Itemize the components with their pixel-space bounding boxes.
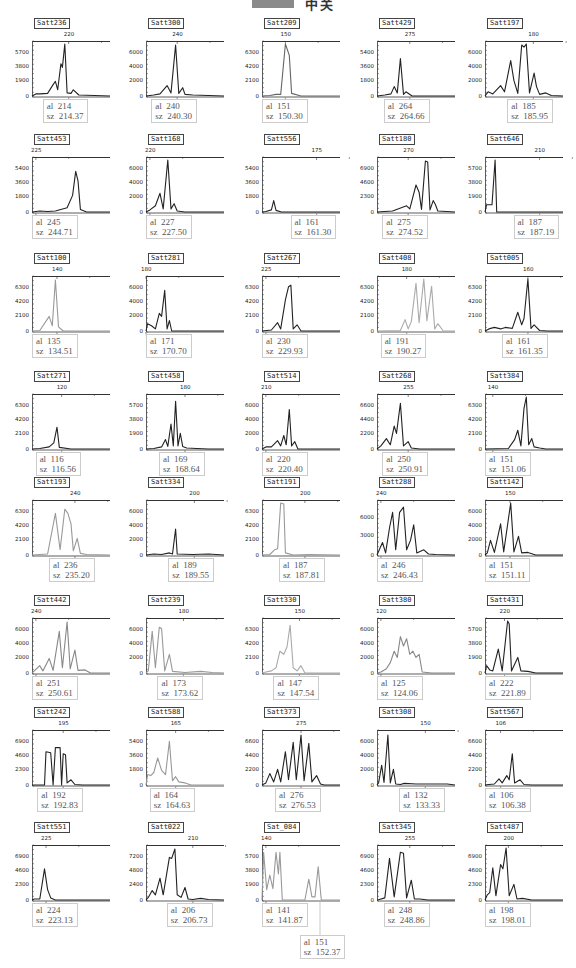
allele-value: al 220 bbox=[266, 454, 303, 464]
trace-plot bbox=[262, 276, 346, 336]
size-value: sz 187.81 bbox=[283, 570, 320, 580]
y-tick-label: 2100 bbox=[7, 536, 29, 542]
panel-satt022: Satt0222107200480024000al 206sz 206.73 bbox=[118, 818, 230, 936]
allele-value: al 224 bbox=[36, 905, 73, 915]
panel-satt191: Satt1912006300420021000al 187sz 187.81 bbox=[234, 473, 346, 591]
panel-satt514: Satt5142106000400020000al 220sz 220.40 bbox=[234, 367, 346, 485]
allele-value: al 245 bbox=[36, 217, 73, 227]
y-tick-label: 4000 bbox=[121, 640, 143, 646]
size-value: sz 151.11 bbox=[489, 570, 525, 580]
y-tick-label: 4200 bbox=[237, 298, 259, 304]
allele-call-box: al 132sz 133.33 bbox=[399, 788, 445, 812]
allele-value: al 147 bbox=[277, 678, 314, 688]
reference-size-label: 225 bbox=[41, 835, 52, 841]
marker-label: Satt556 bbox=[264, 134, 300, 145]
y-tick-label: 0 bbox=[7, 782, 29, 788]
reference-size-label: 225 bbox=[261, 266, 272, 272]
allele-value: al 151 bbox=[266, 101, 303, 111]
size-value: sz 250.61 bbox=[36, 688, 73, 698]
trace-plot bbox=[485, 618, 569, 678]
size-value: sz 106.38 bbox=[489, 800, 526, 810]
allele-call-box: al 161sz 161.30 bbox=[291, 215, 337, 239]
size-value: sz 274.52 bbox=[386, 227, 423, 237]
y-tick-label: 2100 bbox=[237, 312, 259, 318]
panel-satt380: Satt3801206000400020000al 125sz 124.06 bbox=[349, 591, 461, 709]
reference-size-label: 200 bbox=[189, 490, 200, 496]
y-tick-label: 0 bbox=[460, 93, 482, 99]
panel-satt487: Satt4872006900460023000al 198sz 198.01 bbox=[457, 818, 569, 936]
size-value: sz 150.30 bbox=[266, 111, 303, 121]
allele-call-box: al 245sz 244.71 bbox=[32, 215, 78, 239]
y-tick-label: 0 bbox=[121, 552, 143, 558]
panel-satt193: Satt1932406300420021000al 236sz 235.20 bbox=[4, 473, 116, 591]
allele-call-box: al 141sz 141.87 bbox=[262, 903, 308, 927]
size-value: sz 246.43 bbox=[381, 570, 418, 580]
y-tick-label: 1900 bbox=[237, 881, 259, 887]
allele-call-box: al 151sz 150.30 bbox=[262, 99, 308, 123]
y-tick-label: 4200 bbox=[237, 522, 259, 528]
reference-size-label: 240 bbox=[70, 490, 81, 496]
size-value: sz 170.70 bbox=[150, 346, 187, 356]
panel-satt308: Satt3081506000400020000al 132sz 133.33 bbox=[349, 703, 461, 821]
y-tick-label: 3600 bbox=[352, 63, 374, 69]
y-tick-label: 6000 bbox=[460, 508, 482, 514]
y-tick-label: 2000 bbox=[7, 654, 29, 660]
size-value: sz 164.63 bbox=[154, 800, 191, 810]
y-tick-label: 0 bbox=[237, 446, 259, 452]
reference-size-label: 240 bbox=[376, 490, 387, 496]
y-tick-label: 3600 bbox=[7, 179, 29, 185]
trace-plot bbox=[262, 41, 346, 101]
y-tick-label: 0 bbox=[121, 93, 143, 99]
y-tick-label: 2000 bbox=[121, 193, 143, 199]
y-tick-label: 6300 bbox=[7, 284, 29, 290]
size-value: sz 214.37 bbox=[47, 111, 84, 121]
y-tick-label: 0 bbox=[237, 93, 259, 99]
panel-satt334: Satt3342006000400020000al 189sz 189.55 bbox=[118, 473, 230, 591]
y-tick-label: 2000 bbox=[121, 77, 143, 83]
allele-value: al 189 bbox=[172, 560, 209, 570]
y-tick-label: 2000 bbox=[121, 654, 143, 660]
marker-label: Satt330 bbox=[264, 595, 300, 606]
y-tick-label: 3800 bbox=[237, 867, 259, 873]
panel-satt288: Satt288240600030000al 246sz 246.43 bbox=[349, 473, 461, 591]
y-tick-label: 4600 bbox=[352, 179, 374, 185]
y-tick-label: 0 bbox=[7, 209, 29, 215]
marker-label: Satt300 bbox=[148, 18, 184, 29]
allele-value: al 227 bbox=[150, 217, 187, 227]
panel-satt458: Satt4581805700380019000al 169sz 168.64 bbox=[118, 367, 230, 485]
size-value: sz 190.27 bbox=[385, 346, 422, 356]
panel-sat_084: Sat_0841405700380019000al 141sz 141.87al… bbox=[234, 818, 346, 936]
marker-label: Satt288 bbox=[379, 477, 415, 488]
marker-label: Satt267 bbox=[264, 253, 300, 264]
allele-value: al 164 bbox=[154, 790, 191, 800]
reference-size-label: 180 bbox=[180, 384, 191, 390]
y-tick-label: 4000 bbox=[237, 416, 259, 422]
y-tick-label: 5700 bbox=[121, 402, 143, 408]
y-tick-label: 3600 bbox=[121, 752, 143, 758]
marker-label: Satt453 bbox=[34, 134, 70, 145]
marker-label: Satt209 bbox=[264, 18, 300, 29]
marker-label: Satt334 bbox=[148, 477, 184, 488]
allele-call-box: al 214sz 214.37 bbox=[43, 99, 89, 123]
allele-call-box: al 125sz 124.06 bbox=[377, 676, 423, 700]
y-tick-label: 6300 bbox=[460, 402, 482, 408]
reference-size-label: 210 bbox=[188, 835, 199, 841]
y-tick-label: 6300 bbox=[7, 402, 29, 408]
allele-value: al 135 bbox=[36, 336, 73, 346]
allele-call-box: al 206sz 206.73 bbox=[167, 903, 213, 927]
allele-value: al 185 bbox=[511, 101, 548, 111]
marker-label: Satt180 bbox=[379, 134, 415, 145]
reference-size-label: 255 bbox=[403, 384, 414, 390]
allele-value: al 206 bbox=[171, 905, 208, 915]
allele-value: al 132 bbox=[403, 790, 440, 800]
marker-label: Satt236 bbox=[34, 18, 70, 29]
size-value: sz 276.53 bbox=[279, 800, 316, 810]
reference-size-label: 150 bbox=[294, 608, 305, 614]
y-tick-label: 2100 bbox=[460, 312, 482, 318]
panel-satt373: Satt3732756600440022000al 276sz 276.53 bbox=[234, 703, 346, 821]
panel-satt345: Satt3452556900460023000al 248sz 248.86 bbox=[349, 818, 461, 936]
marker-label: Satt193 bbox=[34, 477, 70, 488]
y-tick-label: 6000 bbox=[121, 165, 143, 171]
y-tick-label: 2100 bbox=[7, 430, 29, 436]
size-value: sz 161.30 bbox=[295, 227, 332, 237]
